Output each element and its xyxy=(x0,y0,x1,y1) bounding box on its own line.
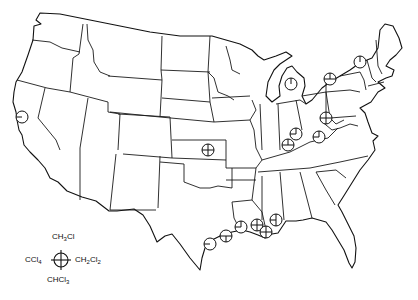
site-symbol-california xyxy=(16,111,28,123)
site-symbol-indiana-south xyxy=(290,128,302,140)
legend-symbol-icon xyxy=(50,249,72,271)
site-symbol-louisiana-new-orleans xyxy=(260,226,272,238)
site-symbol-indiana-southwest xyxy=(282,139,294,151)
legend-top-label: CH3Cl xyxy=(52,232,74,244)
site-symbol-ohio-northeast xyxy=(324,73,336,85)
site-symbol-kentucky xyxy=(313,131,325,143)
site-symbol-louisiana-west xyxy=(235,221,247,233)
legend-right-label: CH2Cl2 xyxy=(75,255,101,267)
monitoring-sites xyxy=(16,56,366,250)
symbol-legend: CH3Cl CCl4 CH2Cl2 CHCl3 xyxy=(20,232,140,294)
site-symbol-michigan xyxy=(285,78,297,90)
site-symbol-west-virginia xyxy=(320,112,332,124)
legend-bottom-label: CHCl3 xyxy=(47,275,69,287)
site-symbol-new-york xyxy=(354,56,366,68)
state-boundaries xyxy=(17,24,384,230)
site-symbol-kansas xyxy=(202,144,214,156)
site-symbol-texas-houston xyxy=(220,230,232,242)
site-symbol-mississippi-coast xyxy=(270,214,282,226)
legend-left-label: CCl4 xyxy=(25,255,42,267)
site-symbol-texas-coast xyxy=(204,238,216,250)
